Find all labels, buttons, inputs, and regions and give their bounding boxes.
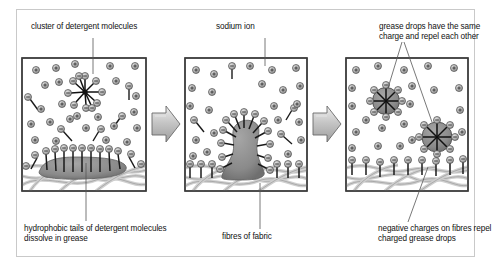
panel-1: [22, 58, 147, 191]
arrow-2-to-3: [313, 106, 341, 142]
caption-sodium: sodium ion: [216, 22, 306, 32]
grease-drop-1: [367, 82, 406, 121]
caption-negative-charges: negative charges on fibres repel charged…: [378, 224, 496, 245]
panel-2: [185, 58, 308, 191]
panel-3: [346, 58, 469, 191]
caption-fibres: fibres of fabric: [222, 232, 302, 242]
grease-drop-2: [416, 117, 459, 158]
arrow-1-to-2: [152, 106, 180, 142]
caption-repel: grease drops have the same charge and re…: [379, 22, 487, 43]
caption-hydrophobic: hydrophobic tails of detergent molecules…: [24, 224, 174, 245]
caption-cluster: cluster of detergent molecules: [31, 22, 161, 32]
